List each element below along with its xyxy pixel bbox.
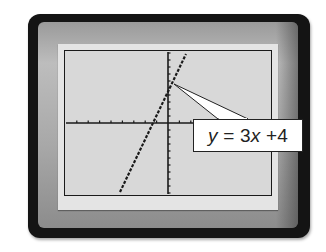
equation-label: y = 3x +4 bbox=[193, 119, 303, 152]
callout-pointer bbox=[174, 84, 248, 119]
equation-y-var: y bbox=[208, 125, 218, 146]
equation-equals: = 3 bbox=[218, 125, 251, 146]
equation-x-var: x bbox=[251, 125, 261, 146]
equation-tail: +4 bbox=[260, 125, 288, 146]
calculator-display: y = 3x +4 bbox=[0, 0, 326, 252]
